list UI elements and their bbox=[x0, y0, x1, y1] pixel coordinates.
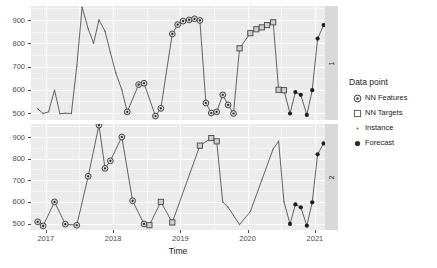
data-point-instance bbox=[261, 179, 263, 181]
y-axis-tick-label: 500 bbox=[3, 220, 25, 228]
x-axis-tick-mark bbox=[113, 230, 114, 233]
legend-item-nn-features[interactable]: NN Features bbox=[349, 91, 435, 106]
data-point-nn-features bbox=[225, 102, 231, 108]
x-axis-tick-label: 2020 bbox=[233, 235, 263, 243]
data-point-nn-features bbox=[231, 111, 237, 117]
legend-item-nn-targets[interactable]: NN Targets bbox=[349, 106, 435, 121]
x-axis-tick-label: 2017 bbox=[31, 235, 61, 243]
y-axis-tick-mark bbox=[28, 159, 31, 160]
x-axis-tick-mark bbox=[180, 230, 181, 233]
data-point-nn-features bbox=[180, 18, 186, 24]
data-point-nn-features bbox=[107, 158, 113, 164]
data-point-instance bbox=[98, 19, 100, 21]
data-point-instance bbox=[272, 148, 274, 150]
facet-strip-2: 2 bbox=[325, 124, 338, 230]
legend-label-nn-targets: NN Targets bbox=[365, 109, 402, 117]
y-axis-tick-label: 700 bbox=[3, 63, 25, 71]
data-point-nn-targets bbox=[271, 20, 276, 25]
data-point-forecast bbox=[305, 113, 309, 117]
data-point-instance bbox=[104, 30, 106, 32]
data-point-forecast bbox=[310, 200, 314, 204]
y-axis-tick-label: 800 bbox=[3, 155, 25, 163]
data-point-nn-targets bbox=[209, 135, 214, 140]
data-point-nn-features bbox=[130, 198, 136, 204]
data-point-instance bbox=[250, 211, 252, 213]
data-point-nn-features bbox=[141, 80, 147, 86]
data-point-nn-features bbox=[186, 17, 192, 23]
data-point-instance bbox=[222, 201, 224, 203]
y-axis-tick-mark bbox=[28, 90, 31, 91]
data-point-instance bbox=[48, 111, 50, 113]
data-point-nn-features bbox=[102, 165, 108, 171]
data-point-instance bbox=[42, 113, 44, 115]
series-line bbox=[38, 125, 325, 226]
data-point-forecast bbox=[315, 36, 319, 40]
data-point-nn-features bbox=[124, 109, 130, 115]
data-point-instance bbox=[227, 207, 229, 209]
legend-item-instance[interactable]: Instance bbox=[349, 121, 435, 136]
data-point-nn-features bbox=[62, 221, 68, 227]
filled-circle-icon bbox=[349, 136, 365, 151]
data-point-instance bbox=[37, 108, 39, 110]
facet-panel-1 bbox=[31, 6, 325, 120]
y-axis-tick-mark bbox=[28, 202, 31, 203]
y-axis-tick-label: 900 bbox=[3, 17, 25, 25]
x-axis-title: Time bbox=[31, 247, 325, 256]
legend-label-nn-features: NN Features bbox=[365, 94, 408, 102]
data-point-instance bbox=[81, 6, 83, 8]
y-axis-tick-mark bbox=[28, 137, 31, 138]
data-point-forecast bbox=[310, 88, 314, 92]
data-point-forecast bbox=[288, 222, 292, 226]
series-layer bbox=[31, 124, 325, 230]
data-point-forecast bbox=[299, 93, 303, 97]
data-point-instance bbox=[65, 113, 67, 115]
data-point-instance bbox=[283, 201, 285, 203]
data-point-instance bbox=[239, 224, 241, 226]
facet-strip-label-1: 1 bbox=[328, 61, 335, 65]
data-point-instance bbox=[93, 42, 95, 44]
data-point-forecast bbox=[288, 111, 292, 115]
data-point-nn-features bbox=[197, 18, 203, 24]
data-point-instance bbox=[278, 141, 280, 143]
y-axis-tick-mark bbox=[28, 43, 31, 44]
x-axis-tick-mark bbox=[315, 230, 316, 233]
facet-strip-label-2: 2 bbox=[328, 175, 335, 179]
data-point-nn-features bbox=[52, 199, 58, 205]
legend: Data point NN Features NN Targets bbox=[349, 78, 435, 151]
data-point-nn-targets bbox=[158, 199, 163, 204]
data-point-instance bbox=[54, 89, 56, 91]
facet-strip-1: 1 bbox=[325, 6, 338, 120]
facet-panel-2 bbox=[31, 124, 325, 230]
data-point-nn-targets bbox=[214, 139, 219, 144]
data-point-instance bbox=[76, 66, 78, 68]
x-axis-tick-mark bbox=[46, 230, 47, 233]
x-axis-tick-label: 2021 bbox=[300, 235, 330, 243]
data-point-nn-features bbox=[40, 223, 46, 229]
data-point-nn-targets bbox=[237, 46, 242, 51]
x-axis-tick-label: 2018 bbox=[98, 235, 128, 243]
data-point-nn-features bbox=[153, 113, 159, 119]
data-point-nn-features bbox=[158, 105, 164, 111]
chart-root: 1 2 500600700800900500600700800900201720… bbox=[0, 0, 437, 268]
y-axis-tick-mark bbox=[28, 180, 31, 181]
legend-title: Data point bbox=[349, 78, 435, 87]
legend-item-forecast[interactable]: Forecast bbox=[349, 136, 435, 151]
data-point-nn-features bbox=[175, 22, 181, 28]
data-point-nn-features bbox=[136, 82, 142, 88]
data-point-forecast bbox=[305, 224, 309, 228]
data-point-nn-features bbox=[119, 134, 125, 140]
data-point-instance bbox=[115, 72, 117, 74]
data-point-nn-targets bbox=[265, 22, 270, 27]
y-axis-tick-label: 600 bbox=[3, 86, 25, 94]
data-point-nn-features bbox=[96, 124, 102, 128]
data-point-instance bbox=[71, 113, 73, 115]
circle-dot-icon bbox=[349, 91, 365, 106]
open-square-icon bbox=[349, 106, 365, 121]
data-point-nn-targets bbox=[281, 88, 286, 93]
y-axis-tick-label: 900 bbox=[3, 134, 25, 142]
data-point-nn-targets bbox=[248, 31, 253, 36]
y-axis-tick-mark bbox=[28, 224, 31, 225]
y-axis-tick-label: 500 bbox=[3, 110, 25, 118]
y-axis-tick-label: 800 bbox=[3, 40, 25, 48]
data-point-forecast bbox=[299, 205, 303, 209]
